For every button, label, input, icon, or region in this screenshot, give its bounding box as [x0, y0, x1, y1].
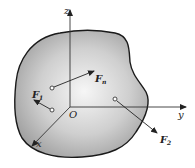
f2-label: F2 [159, 134, 171, 146]
z-axis-label: z [63, 5, 70, 16]
diagram-canvas: z y x O Fn F1 F2 [0, 0, 195, 168]
x-axis-label: x [36, 138, 42, 149]
y-axis-label: y [177, 109, 184, 120]
origin-label: O [69, 109, 77, 120]
